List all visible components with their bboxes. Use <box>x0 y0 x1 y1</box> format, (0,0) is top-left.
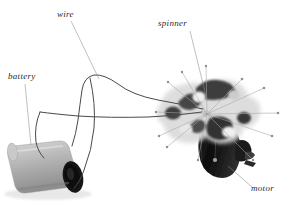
leader-battery <box>25 84 31 145</box>
battery-part <box>4 141 92 200</box>
leader-motor <box>228 166 252 187</box>
label-spinner: spinner <box>158 19 187 28</box>
figure-illustration <box>0 0 292 205</box>
label-wire: wire <box>57 10 74 19</box>
figure-canvas: battery wire spinner motor <box>0 0 292 205</box>
label-motor: motor <box>251 184 274 193</box>
label-battery: battery <box>8 72 36 81</box>
leader-wire <box>71 21 99 79</box>
